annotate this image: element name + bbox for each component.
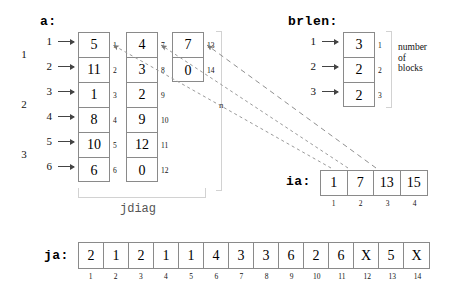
row-label-4: 4 (40, 110, 52, 122)
array-label-ja: ja: (44, 248, 69, 263)
row-label-6: 6 (40, 160, 52, 172)
a-cell: 7 (173, 33, 203, 58)
ia-row: 1 7 13 15 (320, 170, 428, 196)
jdiag-label: jdiag (120, 202, 156, 216)
jdiag-bracket (78, 188, 206, 198)
brlen-row-label-1: 1 (304, 35, 316, 47)
ja-index: 2 (103, 272, 128, 281)
ja-index: 12 (355, 272, 380, 281)
array-label-a: a: (40, 14, 57, 29)
a-cell: 4 (127, 33, 157, 58)
ja-index: 3 (128, 272, 153, 281)
ja-index: 9 (279, 272, 304, 281)
ja-cell: 1 (154, 243, 179, 268)
ja-index: 10 (304, 272, 329, 281)
brlen-index: 3 (378, 91, 382, 100)
ja-cell: X (354, 243, 379, 268)
ja-cell: 1 (179, 243, 204, 268)
ja-index: 1 (78, 272, 103, 281)
brlen-row-arrow-3-icon (322, 91, 338, 92)
a-index: 10 (161, 116, 169, 125)
ia-index: 4 (401, 199, 428, 208)
a-cell: 0 (173, 58, 203, 83)
a-index: 5 (113, 141, 117, 150)
ja-cell: 2 (304, 243, 329, 268)
ia-cell: 1 (321, 171, 348, 195)
ja-index: 13 (380, 272, 405, 281)
a-index: 13 (207, 41, 215, 50)
brlen-row-label-2: 2 (304, 60, 316, 72)
ia-cell: 13 (374, 171, 401, 195)
ja-cell: 5 (379, 243, 404, 268)
ja-cell: 3 (229, 243, 254, 268)
row-label-1: 1 (40, 35, 52, 47)
a-index: 1 (113, 41, 117, 50)
ia-index: 3 (374, 199, 401, 208)
row-arrow-4-icon (58, 116, 74, 117)
a-cell: 0 (127, 158, 157, 183)
ja-index: 8 (254, 272, 279, 281)
ja-cell: 6 (279, 243, 304, 268)
ja-index: 14 (405, 272, 430, 281)
brlen-index: 1 (378, 41, 382, 50)
ia-index: 2 (347, 199, 374, 208)
row-label-5: 5 (40, 135, 52, 147)
a-cell: 2 (127, 83, 157, 108)
ja-cell: 6 (329, 243, 354, 268)
row-label-2: 2 (40, 60, 52, 72)
ja-cell: 2 (129, 243, 154, 268)
n-marker: n (219, 100, 224, 110)
a-index: 2 (113, 66, 117, 75)
block-label-3: 3 (18, 148, 30, 160)
block-label-2: 2 (18, 98, 30, 110)
brlen-cell: 2 (344, 58, 374, 83)
row-arrow-1-icon (58, 41, 74, 42)
a-cell: 10 (79, 133, 109, 158)
ja-cell: 4 (204, 243, 229, 268)
ja-index: 6 (204, 272, 229, 281)
block-label-1: 1 (18, 48, 30, 60)
a-cell: 5 (79, 33, 109, 58)
brlen-row-arrow-2-icon (322, 66, 338, 67)
diagram-canvas: a: 1 2 3 1 2 3 4 5 6 5 11 1 8 10 6 1 2 3… (0, 0, 452, 291)
a-cell: 1 (79, 83, 109, 108)
brlen-index: 2 (378, 66, 382, 75)
ia-cell: 7 (348, 171, 375, 195)
brlen-right-bracket (386, 31, 392, 108)
a-index: 9 (161, 91, 165, 100)
a-column-3: 7 0 (172, 32, 204, 82)
brlen-row-label-3: 3 (304, 85, 316, 97)
a-cell: 3 (127, 58, 157, 83)
row-label-3: 3 (40, 85, 52, 97)
a-index: 11 (161, 141, 168, 150)
a-index: 4 (113, 116, 117, 125)
row-arrow-3-icon (58, 91, 74, 92)
brlen-column: 3 2 2 (343, 32, 375, 107)
ja-cell: 3 (254, 243, 279, 268)
ja-cell: X (404, 243, 429, 268)
a-column-2: 4 3 2 9 12 0 (126, 32, 158, 182)
a-cell: 12 (127, 133, 157, 158)
ja-index: 11 (329, 272, 354, 281)
ja-index: 7 (229, 272, 254, 281)
row-arrow-6-icon (58, 166, 74, 167)
array-label-brlen: brlen: (288, 14, 338, 29)
a-cell: 8 (79, 108, 109, 133)
array-label-ia: ia: (286, 174, 311, 189)
a-index: 14 (207, 66, 215, 75)
ja-cell: 1 (104, 243, 129, 268)
a-cell: 6 (79, 158, 109, 183)
a-right-bracket (216, 31, 222, 191)
ja-cell: 2 (79, 243, 104, 268)
brlen-cell: 2 (344, 83, 374, 108)
brlen-cell: 3 (344, 33, 374, 58)
a-cell: 11 (79, 58, 109, 83)
a-index: 3 (113, 91, 117, 100)
a-column-1: 5 11 1 8 10 6 (78, 32, 110, 182)
ja-index: 5 (179, 272, 204, 281)
ja-index: 4 (153, 272, 178, 281)
a-index: 7 (161, 41, 165, 50)
ia-index: 1 (320, 199, 347, 208)
ja-row: 2 1 2 1 1 4 3 3 6 2 6 X 5 X (78, 242, 430, 269)
row-arrow-5-icon (58, 141, 74, 142)
